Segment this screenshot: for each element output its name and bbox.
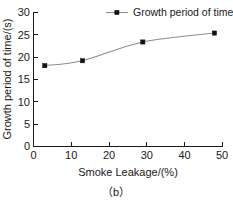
y-tick-label: 5	[24, 118, 30, 130]
legend-label: Growth period of time	[133, 6, 233, 18]
chart-plot-area: 0 5 10 15 20 25 30 0 10 20 30 40 50	[0, 0, 233, 203]
x-tick-label: 20	[103, 149, 115, 161]
y-axis-tick-labels: 0 5 10 15 20 25 30	[18, 6, 30, 152]
x-tick-label: 0	[30, 149, 36, 161]
y-tick-label: 15	[18, 73, 30, 85]
legend-marker-icon	[115, 10, 119, 14]
x-tick-label: 30	[141, 149, 153, 161]
line-chart: 0 5 10 15 20 25 30 0 10 20 30 40 50	[0, 0, 233, 203]
chart-legend: Growth period of time	[106, 6, 233, 18]
y-tick-label: 20	[18, 51, 30, 63]
data-point	[212, 31, 216, 35]
x-axis-ticks	[34, 142, 223, 147]
y-tick-label: 25	[18, 29, 30, 41]
data-point	[141, 40, 145, 44]
y-tick-label: 0	[24, 140, 30, 152]
data-point	[80, 59, 84, 63]
y-tick-label: 30	[18, 6, 30, 18]
x-axis-title: Smoke Leakage/(%)	[78, 166, 178, 178]
series-curve	[45, 33, 215, 66]
figure-container: 0 5 10 15 20 25 30 0 10 20 30 40 50	[0, 0, 233, 203]
x-tick-label: 10	[65, 149, 77, 161]
x-axis-tick-labels: 0 10 20 30 40 50	[30, 149, 228, 161]
x-tick-label: 50	[216, 149, 228, 161]
figure-caption: （b）	[102, 186, 130, 198]
y-axis-title: Growth period of time/(s)	[1, 18, 13, 139]
x-tick-label: 40	[178, 149, 190, 161]
y-axis-ticks	[34, 13, 39, 147]
series-markers	[43, 31, 217, 68]
y-tick-label: 10	[18, 96, 30, 108]
data-point	[43, 64, 47, 68]
